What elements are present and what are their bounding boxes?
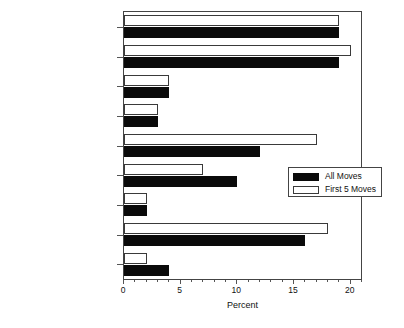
x-axis-tick-minor xyxy=(316,280,317,282)
y-axis-labels-container: Test ScoresStudentsStaffSpecial Programs… xyxy=(0,12,404,279)
x-axis-tick-major xyxy=(236,280,237,284)
x-axis-tick-minor xyxy=(248,280,249,282)
horizontal-bar-chart: Test ScoresStudentsStaffSpecial Programs… xyxy=(0,0,404,328)
x-axis-tick-minor xyxy=(146,280,147,282)
x-axis-tick-minor xyxy=(259,280,260,282)
chart-legend: All Moves First 5 Moves xyxy=(288,167,382,197)
x-axis-tick-minor xyxy=(157,280,158,282)
x-axis-tick-minor xyxy=(134,280,135,282)
x-axis-tick-minor xyxy=(168,280,169,282)
y-axis-tick xyxy=(117,146,123,147)
y-axis-tick xyxy=(117,86,123,87)
legend-label-first-5-moves: First 5 Moves xyxy=(325,185,376,194)
y-axis-tick xyxy=(117,264,123,265)
legend-item-first-5-moves: First 5 Moves xyxy=(293,184,377,195)
x-axis-tick-major xyxy=(180,280,181,284)
x-axis-tick-minor xyxy=(282,280,283,282)
x-axis-tick-minor xyxy=(214,280,215,282)
y-axis-tick xyxy=(117,205,123,206)
y-axis-tick xyxy=(117,116,123,117)
x-axis-tick-label-20: 20 xyxy=(338,285,362,295)
legend-item-all-moves: All Moves xyxy=(293,171,377,182)
x-axis-tick-major xyxy=(123,280,124,284)
x-axis-tick-label-0: 0 xyxy=(111,285,135,295)
x-axis-tick-minor xyxy=(304,280,305,282)
legend-swatch-all-moves xyxy=(293,173,319,181)
x-axis-title: Percent xyxy=(123,300,362,310)
x-axis-tick-major xyxy=(350,280,351,284)
x-axis-tick-label-5: 5 xyxy=(168,285,192,295)
x-axis-tick-minor xyxy=(225,280,226,282)
x-axis-tick-minor xyxy=(338,280,339,282)
x-axis-tick-label-15: 15 xyxy=(281,285,305,295)
y-axis-tick xyxy=(117,57,123,58)
legend-swatch-first-5-moves xyxy=(293,186,319,194)
x-axis-tick-major xyxy=(293,280,294,284)
y-axis-tick xyxy=(117,27,123,28)
x-axis-tick-label-10: 10 xyxy=(224,285,248,295)
y-axis-tick xyxy=(117,235,123,236)
x-axis-tick-minor xyxy=(361,280,362,282)
legend-label-all-moves: All Moves xyxy=(325,172,362,181)
x-axis-tick-minor xyxy=(191,280,192,282)
x-axis-tick-minor xyxy=(202,280,203,282)
x-axis-tick-minor xyxy=(270,280,271,282)
y-axis-tick xyxy=(117,175,123,176)
x-axis-tick-minor xyxy=(327,280,328,282)
